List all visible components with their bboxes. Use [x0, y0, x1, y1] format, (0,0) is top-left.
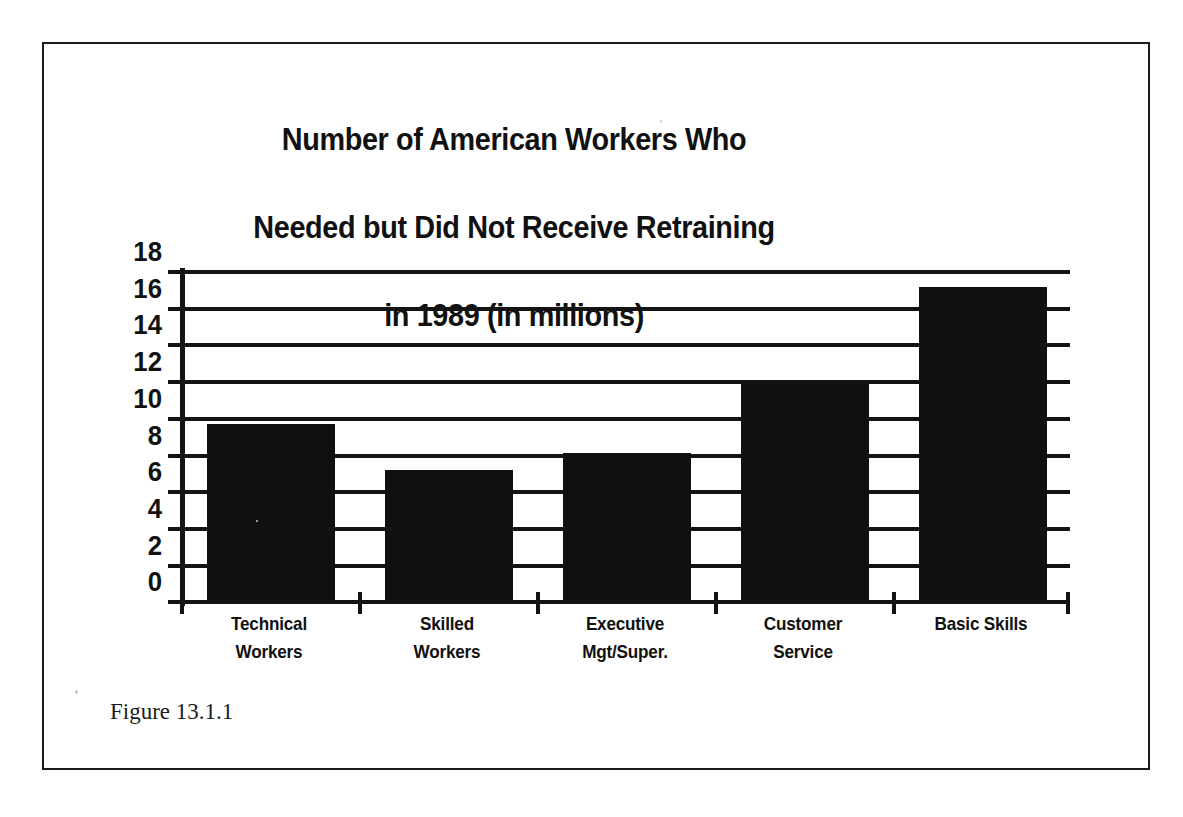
y-tick-mark-10 [168, 417, 188, 421]
plot-area [180, 270, 1070, 600]
y-tick-mark-14 [168, 343, 188, 347]
gridline-18 [180, 270, 1070, 274]
y-tick-label-8: 8 [109, 422, 162, 450]
y-tick-mark-4 [168, 527, 188, 531]
x-label-technical-workers: Technical Workers [189, 610, 349, 666]
x-label-basic-skills: Basic Skills [901, 610, 1061, 638]
x-axis-line [180, 600, 1070, 604]
y-tick-mark-8 [168, 454, 188, 458]
y-tick-label-4: 4 [109, 495, 162, 523]
bar-skilled-workers [385, 470, 513, 600]
y-tick-label-2: 2 [109, 532, 162, 560]
x-label-skilled-workers: Skilled Workers [367, 610, 527, 666]
scan-speck [75, 690, 78, 694]
y-tick-mark-18 [168, 270, 188, 274]
y-tick-label-10: 10 [109, 385, 162, 413]
scan-speck [660, 120, 662, 123]
y-tick-mark-16 [168, 307, 188, 311]
y-tick-label-18: 18 [109, 238, 162, 266]
y-tick-label-16: 16 [109, 275, 162, 303]
bar-executive-mgt-super [563, 453, 691, 600]
bar-customer-service [741, 384, 869, 600]
x-label-executive-mgt: Executive Mgt/Super. [545, 610, 705, 666]
y-tick-mark-12 [168, 380, 188, 384]
x-label-customer-service: Customer Service [723, 610, 883, 666]
y-tick-label-14: 14 [109, 311, 162, 339]
scan-speck [256, 520, 258, 522]
bar-technical-workers [207, 424, 335, 600]
figure-page: Number of American Workers Who Needed bu… [0, 0, 1183, 817]
figure-caption: Figure 13.1.1 [110, 698, 233, 726]
x-axis-category-labels: Technical Workers Skilled Workers Execut… [180, 610, 1070, 700]
y-tick-label-0: 0 [109, 568, 162, 596]
figure-border-frame: Number of American Workers Who Needed bu… [42, 42, 1150, 770]
bar-chart: 18 16 14 12 10 8 6 4 2 0 [44, 44, 1152, 772]
y-axis-tick-labels: 18 16 14 12 10 8 6 4 2 0 [104, 252, 162, 602]
y-tick-mark-2 [168, 564, 188, 568]
y-tick-mark-6 [168, 490, 188, 494]
y-tick-label-12: 12 [109, 348, 162, 376]
y-axis-line [180, 268, 185, 606]
bar-basic-skills [919, 287, 1047, 601]
y-tick-label-6: 6 [109, 458, 162, 486]
